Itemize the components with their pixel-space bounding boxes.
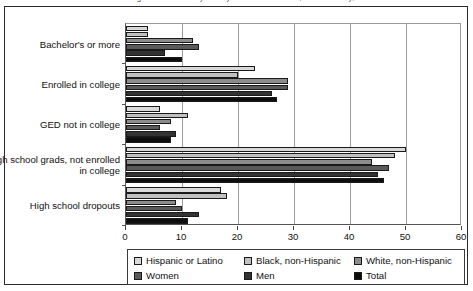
bar-stack xyxy=(126,106,460,143)
bar[interactable] xyxy=(126,72,238,77)
bar[interactable] xyxy=(126,91,272,96)
bar-stack xyxy=(126,26,460,63)
bar-group: GED not in college xyxy=(126,105,460,145)
bar[interactable] xyxy=(126,44,199,49)
x-tick-10 xyxy=(181,226,182,230)
x-tick-label: 10 xyxy=(176,231,187,242)
legend-label: Hispanic or Latino xyxy=(146,256,223,266)
bar[interactable] xyxy=(126,113,188,118)
legend-item[interactable]: Women xyxy=(134,271,244,281)
chart-frame: Bachelor's or moreEnrolled in collegeGED… xyxy=(4,6,468,285)
legend-label: Women xyxy=(146,271,179,281)
bar[interactable] xyxy=(126,193,227,198)
bar[interactable] xyxy=(126,78,288,83)
legend-item[interactable]: Men xyxy=(244,271,354,281)
legend-label: Black, non-Hispanic xyxy=(256,256,341,266)
category-label: High school grads, not enrolled in colle… xyxy=(0,154,120,176)
bar[interactable] xyxy=(126,57,182,62)
bar-row xyxy=(126,97,460,103)
x-tick-60 xyxy=(461,226,462,230)
chart-title: Percentage distribution of youth by educ… xyxy=(104,0,385,2)
bar-stack xyxy=(126,187,460,224)
x-tick-label: 60 xyxy=(456,231,467,242)
category-label: High school dropouts xyxy=(0,200,120,211)
x-tick-label: 40 xyxy=(344,231,355,242)
bar-group: Bachelor's or more xyxy=(126,24,460,64)
bar[interactable] xyxy=(126,172,378,177)
x-tick-label: 50 xyxy=(400,231,411,242)
bar[interactable] xyxy=(126,119,171,124)
x-tick-0 xyxy=(125,226,126,230)
bar-group: High school dropouts xyxy=(126,186,460,226)
bar[interactable] xyxy=(126,50,165,55)
legend-swatch-icon xyxy=(134,272,142,280)
bar-group: Enrolled in college xyxy=(126,64,460,104)
legend-item[interactable]: Black, non-Hispanic xyxy=(244,256,354,266)
x-tick-label: 30 xyxy=(288,231,299,242)
bar[interactable] xyxy=(126,147,406,152)
x-tick-50 xyxy=(405,226,406,230)
bar[interactable] xyxy=(126,137,171,142)
legend-row: Hispanic or LatinoBlack, non-HispanicWhi… xyxy=(134,253,464,268)
plot-area: Bachelor's or moreEnrolled in collegeGED… xyxy=(125,23,461,225)
bar[interactable] xyxy=(126,38,193,43)
bar-row xyxy=(126,137,460,143)
bar[interactable] xyxy=(126,200,176,205)
bar[interactable] xyxy=(126,26,148,31)
bar[interactable] xyxy=(126,106,160,111)
legend-item[interactable]: White, non-Hispanic xyxy=(354,256,464,266)
legend-item[interactable]: Total xyxy=(354,271,464,281)
bar-stack xyxy=(126,66,460,103)
legend-swatch-icon xyxy=(354,272,362,280)
bar[interactable] xyxy=(126,97,277,102)
bar[interactable] xyxy=(126,131,176,136)
bar-row xyxy=(126,57,460,63)
bar[interactable] xyxy=(126,187,221,192)
bar[interactable] xyxy=(126,206,182,211)
category-label: Bachelor's or more xyxy=(0,39,120,50)
x-tick-label: 20 xyxy=(232,231,243,242)
bar[interactable] xyxy=(126,212,199,217)
category-label: Enrolled in college xyxy=(0,79,120,90)
bar[interactable] xyxy=(126,165,389,170)
bar-row xyxy=(126,178,460,184)
legend-swatch-icon xyxy=(244,272,252,280)
x-tick-30 xyxy=(293,226,294,230)
bar[interactable] xyxy=(126,85,288,90)
chart-legend: Hispanic or LatinoBlack, non-HispanicWhi… xyxy=(127,249,465,285)
bar-group: High school grads, not enrolled in colle… xyxy=(126,145,460,185)
bar[interactable] xyxy=(126,32,148,37)
bar[interactable] xyxy=(126,153,395,158)
legend-swatch-icon xyxy=(354,257,362,265)
legend-swatch-icon xyxy=(244,257,252,265)
bar-row xyxy=(126,218,460,224)
bar[interactable] xyxy=(126,159,372,164)
bar[interactable] xyxy=(126,218,188,223)
legend-swatch-icon xyxy=(134,257,142,265)
bar-stack xyxy=(126,147,460,184)
legend-label: Men xyxy=(256,271,275,281)
legend-row: WomenMenTotal xyxy=(134,268,464,283)
category-label: GED not in college xyxy=(0,119,120,130)
bar[interactable] xyxy=(126,66,255,71)
x-tick-label: 0 xyxy=(122,231,127,242)
legend-item[interactable]: Hispanic or Latino xyxy=(134,256,244,266)
legend-label: Total xyxy=(366,271,386,281)
x-tick-40 xyxy=(349,226,350,230)
bar[interactable] xyxy=(126,178,384,183)
bar[interactable] xyxy=(126,125,160,130)
legend-label: White, non-Hispanic xyxy=(366,256,452,266)
x-tick-20 xyxy=(237,226,238,230)
